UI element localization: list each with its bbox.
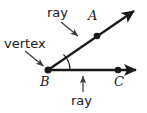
point-b-dot — [45, 67, 52, 74]
point-b-label: B — [40, 75, 50, 88]
point-a-label: A — [88, 9, 97, 22]
pointer-vertex-arrow — [25, 51, 44, 66]
pointer-ray-top-arrow — [61, 22, 78, 36]
point-c-label: C — [114, 75, 124, 88]
vertex-label: vertex — [4, 37, 46, 50]
point-a-dot — [94, 33, 101, 40]
ray-top-label: ray — [47, 6, 68, 19]
ray-bottom-label: ray — [71, 94, 92, 107]
point-c-dot — [115, 67, 122, 74]
geometry-figure: ray vertex ray A B C — [0, 0, 147, 113]
